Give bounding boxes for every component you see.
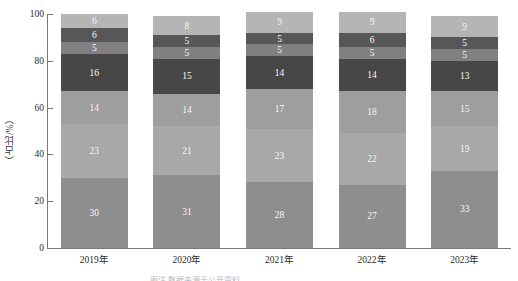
segment-value-label: 17 [275,104,285,114]
segment-value-label: 31 [182,207,192,217]
bar-segment[interactable]: 15 [431,91,498,126]
bar-segment[interactable]: 30 [61,178,128,248]
segment-value-label: 8 [185,21,190,31]
bar-2019年[interactable]: 30231416566 [61,14,128,248]
bar-segment[interactable]: 17 [246,89,313,129]
bar-segment[interactable]: 28 [246,182,313,248]
segment-value-label: 19 [460,144,470,154]
bar-segment[interactable]: 6 [61,28,128,42]
segment-value-label: 5 [185,36,190,46]
bar-segment[interactable]: 15 [153,59,220,94]
segment-value-label: 33 [460,204,470,214]
segment-value-label: 6 [370,35,375,45]
y-tick-mark [48,248,53,249]
segment-value-label: 14 [182,105,192,115]
segment-value-label: 15 [182,71,192,81]
segment-value-label: 30 [90,208,100,218]
x-tick-label: 2019年 [49,252,139,266]
bar-segment[interactable]: 27 [339,185,406,248]
cut-off-caption: 图注 数据来源于公开资料 [150,275,518,281]
bar-segment[interactable]: 14 [246,56,313,89]
y-tick-label: 0 [18,243,44,253]
segment-value-label: 5 [92,43,97,53]
segment-value-label: 13 [460,71,470,81]
segment-value-label: 5 [277,34,282,44]
y-tick-label: 100 [18,9,44,19]
x-axis-line [47,248,511,249]
bar-segment[interactable]: 5 [431,37,498,49]
bar-segment[interactable]: 19 [431,126,498,170]
plot-area: 3023141656631211415558282317145592722181… [48,14,511,248]
bar-segment[interactable]: 22 [339,133,406,184]
segment-value-label: 9 [370,17,375,27]
bar-segment[interactable]: 14 [61,91,128,124]
y-tick-label: 40 [18,149,44,159]
bar-2023年[interactable]: 33191513559 [431,16,498,248]
bar-segment[interactable]: 6 [339,33,406,47]
bar-segment[interactable]: 13 [431,61,498,91]
segment-value-label: 9 [277,17,282,27]
bar-segment[interactable]: 6 [61,14,128,28]
bar-segment[interactable]: 23 [246,129,313,183]
segment-value-label: 5 [462,38,467,48]
bar-segment[interactable]: 5 [61,42,128,54]
bar-segment[interactable]: 31 [153,175,220,248]
bar-segment[interactable]: 5 [246,44,313,56]
bar-segment[interactable]: 5 [153,47,220,59]
segment-value-label: 5 [370,48,375,58]
bar-segment[interactable]: 9 [246,12,313,33]
segment-value-label: 23 [90,146,100,156]
bar-2020年[interactable]: 31211415558 [153,16,220,248]
segment-value-label: 5 [185,48,190,58]
segment-value-label: 15 [460,104,470,114]
bar-2022年[interactable]: 27221814569 [339,12,406,248]
stacked-bar-chart: （占比/%） 020406080100 30231416566312114155… [0,0,518,281]
bar-segment[interactable]: 18 [339,91,406,133]
x-tick-label: 2020年 [142,252,232,266]
segment-value-label: 14 [275,68,285,78]
bar-segment[interactable]: 5 [339,47,406,59]
bar-segment[interactable]: 14 [339,59,406,92]
y-tick-label: 80 [18,56,44,66]
y-tick-label: 20 [18,196,44,206]
bar-segment[interactable]: 33 [431,171,498,248]
segment-value-label: 9 [462,22,467,32]
bar-segment[interactable]: 8 [153,16,220,35]
y-tick-label: 60 [18,103,44,113]
bar-segment[interactable]: 23 [61,124,128,178]
segment-value-label: 6 [92,16,97,26]
bar-segment[interactable]: 5 [246,33,313,45]
segment-value-label: 6 [92,30,97,40]
x-tick-label: 2022年 [327,252,417,266]
bar-segment[interactable]: 5 [153,35,220,47]
segment-value-label: 28 [275,210,285,220]
segment-value-label: 18 [367,107,377,117]
segment-value-label: 23 [275,151,285,161]
segment-value-label: 16 [90,68,100,78]
segment-value-label: 5 [277,45,282,55]
segment-value-label: 21 [182,146,192,156]
bar-segment[interactable]: 9 [431,16,498,37]
segment-value-label: 5 [462,50,467,60]
bar-segment[interactable]: 21 [153,126,220,175]
segment-value-label: 22 [367,154,377,164]
x-tick-label: 2021年 [235,252,325,266]
bar-segment[interactable]: 5 [431,49,498,61]
bar-2021年[interactable]: 28231714559 [246,12,313,248]
x-tick-label: 2023年 [420,252,510,266]
segment-value-label: 27 [367,211,377,221]
bar-segment[interactable]: 16 [61,54,128,91]
segment-value-label: 14 [90,103,100,113]
bar-segment[interactable]: 14 [153,94,220,127]
bar-segment[interactable]: 9 [339,12,406,33]
segment-value-label: 14 [367,70,377,80]
